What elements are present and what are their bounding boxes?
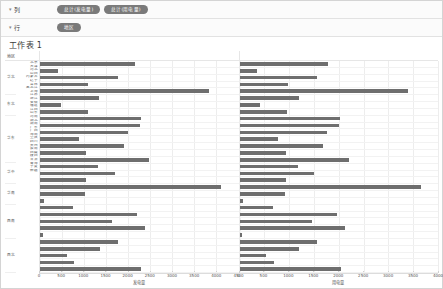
bar-mark[interactable] bbox=[240, 117, 341, 121]
bar-mark[interactable] bbox=[240, 233, 243, 237]
chart-row bbox=[40, 82, 239, 89]
bar-mark[interactable] bbox=[40, 144, 124, 148]
bar-mark[interactable] bbox=[240, 158, 350, 162]
chart-row bbox=[40, 75, 239, 82]
chart-row bbox=[240, 75, 439, 82]
chart-row bbox=[240, 157, 439, 164]
bar-mark[interactable] bbox=[240, 96, 299, 100]
chart-row bbox=[40, 88, 239, 95]
bar-mark[interactable] bbox=[240, 206, 273, 210]
bar-mark[interactable] bbox=[240, 124, 340, 128]
bar-mark[interactable] bbox=[240, 62, 328, 66]
bar-mark[interactable] bbox=[40, 89, 209, 93]
row-headers[interactable]: 地区 华北东北华东华中华南西南西北 北京天津河北山西内蒙古辽宁吉林黑龙江上海江苏… bbox=[5, 51, 40, 273]
bar-mark[interactable] bbox=[40, 254, 67, 258]
bar-mark[interactable] bbox=[40, 76, 118, 80]
bar-mark[interactable] bbox=[40, 213, 137, 217]
columns-shelf-label: ▾ 列 bbox=[5, 5, 57, 14]
bar-mark[interactable] bbox=[40, 240, 118, 244]
columns-shelf[interactable]: ▾ 列 总计(发电量) 总计(用电量) bbox=[1, 1, 442, 19]
region-group-cell[interactable]: 华东 bbox=[5, 116, 16, 163]
bar-mark[interactable] bbox=[240, 254, 267, 258]
bar-mark[interactable] bbox=[240, 69, 258, 73]
chart-row bbox=[40, 136, 239, 143]
worksheet-title: 工作表 1 bbox=[1, 37, 442, 51]
bar-mark[interactable] bbox=[240, 151, 286, 155]
chart-row bbox=[40, 102, 239, 109]
bar-mark[interactable] bbox=[240, 144, 324, 148]
bar-mark[interactable] bbox=[240, 110, 288, 114]
bar-mark[interactable] bbox=[40, 192, 85, 196]
bar-mark[interactable] bbox=[240, 220, 312, 224]
bar-mark[interactable] bbox=[40, 165, 98, 169]
bar-mark[interactable] bbox=[240, 199, 244, 203]
chart-row bbox=[40, 232, 239, 239]
bar-mark[interactable] bbox=[40, 131, 128, 135]
bar-mark[interactable] bbox=[40, 124, 140, 128]
columns-shelf-dropzone[interactable]: 总计(发电量) 总计(用电量) bbox=[57, 3, 438, 16]
bar-mark[interactable] bbox=[240, 83, 288, 87]
bar-mark[interactable] bbox=[40, 261, 74, 265]
bar-mark[interactable] bbox=[240, 213, 337, 217]
bar-mark[interactable] bbox=[40, 226, 145, 230]
bar-mark[interactable] bbox=[40, 62, 135, 66]
bar-mark[interactable] bbox=[240, 261, 275, 265]
bar-mark[interactable] bbox=[40, 96, 99, 100]
bar-mark[interactable] bbox=[40, 158, 149, 162]
bar-mark[interactable] bbox=[40, 267, 141, 271]
bar-mark[interactable] bbox=[240, 172, 314, 176]
chart-row bbox=[40, 239, 239, 246]
bar-mark[interactable] bbox=[240, 131, 328, 135]
bar-mark[interactable] bbox=[240, 240, 318, 244]
chart-row bbox=[40, 68, 239, 75]
region-group-cell[interactable]: 西北 bbox=[5, 239, 16, 273]
bar-mark[interactable] bbox=[240, 103, 261, 107]
bar-mark[interactable] bbox=[40, 117, 141, 121]
bar-mark[interactable] bbox=[240, 137, 279, 141]
bar-mark[interactable] bbox=[240, 185, 421, 189]
pane-header-power-generation bbox=[40, 51, 239, 61]
pill-sum-power-consumption[interactable]: 总计(用电量) bbox=[104, 5, 147, 14]
bar-mark[interactable] bbox=[240, 226, 345, 230]
province-label-cells: 北京天津河北山西内蒙古辽宁吉林黑龙江上海江苏浙江安徽福建江西山东河南湖北湖南广东… bbox=[16, 61, 39, 273]
chart-row bbox=[40, 246, 239, 253]
bar-mark[interactable] bbox=[40, 233, 43, 237]
region-group-cell[interactable]: 东北 bbox=[5, 95, 16, 116]
region-group-cell[interactable]: 华北 bbox=[5, 61, 16, 95]
bar-mark[interactable] bbox=[40, 220, 112, 224]
x-axis-power-consumption[interactable]: 用电量 05001000150020002500300035004000 bbox=[239, 273, 439, 286]
bar-mark[interactable] bbox=[240, 178, 286, 182]
bar-mark[interactable] bbox=[40, 247, 100, 251]
chart-row bbox=[40, 212, 239, 219]
bar-mark[interactable] bbox=[40, 199, 44, 203]
bar-mark[interactable] bbox=[240, 76, 318, 80]
bar-mark[interactable] bbox=[240, 192, 286, 196]
bar-mark[interactable] bbox=[240, 247, 300, 251]
pill-sum-power-generation[interactable]: 总计(发电量) bbox=[57, 5, 100, 14]
province-label-cell[interactable]: 新疆 bbox=[16, 169, 39, 173]
x-axis-power-generation[interactable]: 发电量 050010001500200025003000350040004500 bbox=[39, 273, 239, 286]
bar-mark[interactable] bbox=[240, 267, 342, 271]
rows-shelf-dropzone[interactable]: 地区 bbox=[57, 21, 438, 34]
bar-mark[interactable] bbox=[240, 165, 298, 169]
bar-mark[interactable] bbox=[40, 110, 88, 114]
region-group-cell[interactable]: 华南 bbox=[5, 184, 16, 205]
x-axes: 发电量 050010001500200025003000350040004500… bbox=[5, 273, 438, 286]
bar-mark[interactable] bbox=[240, 89, 409, 93]
pill-region[interactable]: 地区 bbox=[57, 23, 81, 32]
region-group-cell[interactable]: 华中 bbox=[5, 163, 16, 184]
bar-mark[interactable] bbox=[40, 172, 115, 176]
region-group-cell[interactable]: 西南 bbox=[5, 205, 16, 239]
chart-row bbox=[240, 205, 439, 212]
bar-mark[interactable] bbox=[40, 103, 61, 107]
bar-mark[interactable] bbox=[40, 206, 73, 210]
bar-mark[interactable] bbox=[40, 69, 58, 73]
bar-mark[interactable] bbox=[40, 178, 86, 182]
region-group-cells: 华北东北华东华中华南西南西北 bbox=[5, 61, 16, 273]
rows-shelf-label: ▾ 行 bbox=[5, 23, 57, 32]
bar-mark[interactable] bbox=[40, 83, 88, 87]
rows-shelf[interactable]: ▾ 行 地区 bbox=[1, 19, 442, 37]
bar-mark[interactable] bbox=[40, 151, 86, 155]
bar-mark[interactable] bbox=[40, 137, 79, 141]
bar-mark[interactable] bbox=[40, 185, 221, 189]
